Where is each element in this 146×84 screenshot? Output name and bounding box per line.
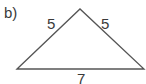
figure-canvas: b) 5 5 7 bbox=[0, 0, 146, 84]
side-right-label: 5 bbox=[101, 15, 109, 32]
triangle-diagram: b) 5 5 7 bbox=[0, 0, 146, 84]
side-base-label: 7 bbox=[77, 70, 85, 84]
part-label: b) bbox=[4, 4, 17, 21]
side-left-label: 5 bbox=[47, 15, 55, 32]
triangle bbox=[17, 9, 144, 69]
